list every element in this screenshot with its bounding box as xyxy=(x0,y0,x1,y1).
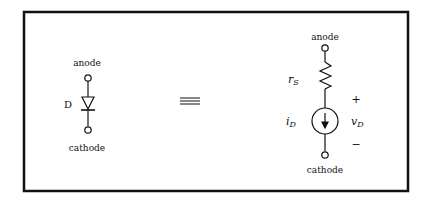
model-anode-label: anode xyxy=(311,32,339,42)
diode-symbol xyxy=(81,75,95,133)
minus-sign: − xyxy=(351,138,360,151)
current-label: iD xyxy=(286,115,297,129)
cathode-label: cathode xyxy=(69,143,105,153)
equivalent-circuit xyxy=(312,45,338,158)
frame xyxy=(24,12,408,191)
voltage-label: vD xyxy=(351,115,364,129)
diode-model-diagram: anode cathode D anode cathode rS iD vD +… xyxy=(0,0,426,200)
diode-label: D xyxy=(64,99,72,110)
model-cathode-label: cathode xyxy=(307,165,343,175)
equivalence-icon xyxy=(180,98,200,104)
anode-label: anode xyxy=(73,58,101,68)
plus-sign: + xyxy=(351,93,360,106)
resistor-label: rS xyxy=(288,73,299,87)
